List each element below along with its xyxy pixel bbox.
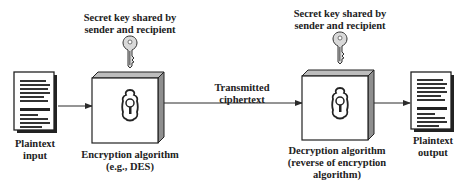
encryption-algorithm-label: Encryption algorithm (e.g., DES) [81, 149, 179, 173]
recipient-key-label: Secret key shared by sender and recipien… [294, 8, 387, 32]
transmitted-ciphertext-label: Transmitted ciphertext [214, 82, 269, 106]
plaintext-input-label: Plaintext input [15, 138, 55, 162]
plaintext-output-document-icon [411, 72, 454, 132]
sender-key-icon [123, 36, 137, 68]
plaintext-input-document-icon [14, 72, 57, 133]
decryption-box-icon [302, 70, 374, 140]
decryption-algorithm-label: Decryption algorithm (reverse of encrypt… [288, 145, 386, 181]
encryption-box-icon [92, 72, 164, 143]
recipient-key-icon [333, 32, 347, 64]
plaintext-output-label: Plaintext output [413, 135, 453, 159]
sender-key-label: Secret key shared by sender and recipien… [84, 12, 177, 36]
